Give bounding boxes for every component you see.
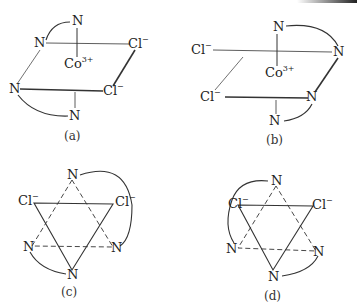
- atom-n: N: [271, 174, 282, 187]
- atom-cl: Cl−: [228, 197, 249, 210]
- atom-co: Co3+: [64, 57, 94, 70]
- atom-n: N: [313, 245, 324, 258]
- atom-n: N: [23, 240, 34, 253]
- atom-cl: Cl−: [103, 84, 124, 97]
- atom-co: Co3+: [265, 66, 295, 79]
- atom-n: N: [333, 45, 344, 58]
- atom-n: N: [9, 82, 20, 95]
- atom-n: N: [111, 241, 122, 254]
- caption-c: (c): [61, 285, 77, 299]
- atom-n: N: [269, 114, 280, 127]
- atom-n: N: [226, 242, 237, 255]
- atom-n: N: [67, 168, 78, 181]
- atom-n: N: [268, 270, 279, 283]
- atom-n: N: [34, 36, 45, 49]
- atom-n: N: [273, 20, 284, 33]
- diagram-lines: [0, 0, 357, 306]
- atom-cl: Cl−: [312, 198, 333, 211]
- caption-b: (b): [266, 133, 283, 147]
- atom-cl: Cl−: [191, 43, 212, 56]
- atom-n: N: [72, 14, 83, 27]
- caption-a: (a): [64, 129, 81, 143]
- atom-cl: Cl−: [18, 194, 39, 207]
- atom-cl: Cl−: [115, 195, 136, 208]
- atom-n: N: [69, 109, 80, 122]
- panel-c-bonds: [30, 171, 132, 274]
- atom-cl: Cl−: [128, 37, 149, 50]
- caption-d: (d): [264, 289, 281, 303]
- atom-n: N: [306, 90, 317, 103]
- atom-n: N: [67, 268, 78, 281]
- atom-cl: Cl−: [200, 90, 221, 103]
